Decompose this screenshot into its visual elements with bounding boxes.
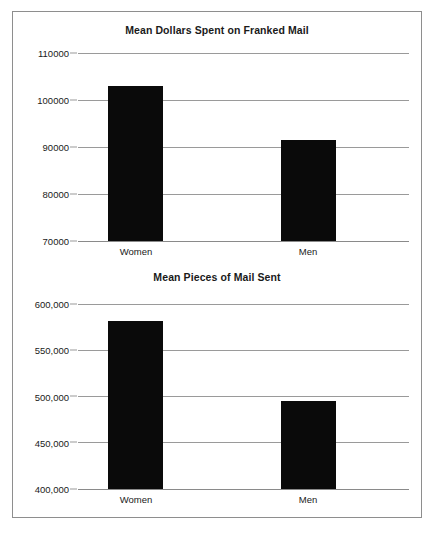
- y-axis-tick-label: 450,000: [35, 437, 69, 448]
- y-axis-tick-mark: [70, 193, 77, 194]
- y-axis-tick-mark: [70, 396, 77, 397]
- x-axis-label-men: Men: [299, 246, 317, 257]
- y-axis-tick-label: 550,000: [35, 345, 69, 356]
- chart-page: Mean Dollars Spent on Franked Mail 70000…: [0, 0, 434, 534]
- bar-women: [108, 86, 163, 241]
- y-axis-tick-label: 400,000: [35, 484, 69, 495]
- y-axis-tick-mark: [70, 349, 77, 350]
- plot-area-bottom: 400,000450,000500,000550,000600,000Women…: [78, 304, 409, 489]
- y-axis-tick-label: 70000: [43, 236, 69, 247]
- y-axis-tick-label: 80000: [43, 189, 69, 200]
- y-axis-tick-label: 500,000: [35, 391, 69, 402]
- chart-mean-dollars-spent: Mean Dollars Spent on Franked Mail 70000…: [13, 12, 421, 266]
- y-axis-tick-mark: [70, 442, 77, 443]
- gridline: [78, 304, 409, 305]
- bar-men: [281, 140, 336, 241]
- y-axis-tick-mark: [70, 303, 77, 304]
- x-axis-label-men: Men: [299, 494, 317, 505]
- y-axis-tick-label: 600,000: [35, 299, 69, 310]
- y-axis-tick-mark: [70, 488, 77, 489]
- charts-frame: Mean Dollars Spent on Franked Mail 70000…: [12, 11, 422, 518]
- y-axis-tick-label: 110000: [38, 48, 69, 59]
- bar-men: [281, 401, 336, 489]
- plot-area-top: 700008000090000100000110000WomenMen: [78, 53, 409, 241]
- chart-title-bottom: Mean Pieces of Mail Sent: [13, 271, 421, 283]
- y-axis-tick-mark: [70, 52, 77, 53]
- gridline: [78, 53, 409, 54]
- y-axis-tick-mark: [70, 146, 77, 147]
- y-axis-tick-label: 100000: [37, 95, 69, 106]
- y-axis-tick-label: 90000: [43, 142, 69, 153]
- x-axis-label-women: Women: [120, 246, 153, 257]
- chart-mean-pieces-of-mail: Mean Pieces of Mail Sent 400,000450,0005…: [13, 266, 421, 517]
- chart-title-top: Mean Dollars Spent on Franked Mail: [13, 24, 421, 36]
- y-axis-tick-mark: [70, 240, 77, 241]
- y-axis-tick-mark: [70, 99, 77, 100]
- bar-women: [108, 321, 163, 489]
- x-axis-label-women: Women: [120, 494, 153, 505]
